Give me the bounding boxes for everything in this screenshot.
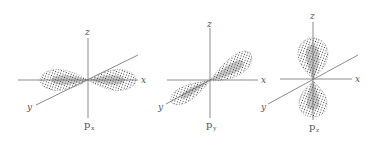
panel-px: z x y p x (18, 27, 146, 131)
caption-sub: y (212, 124, 217, 132)
p-orbitals-figure: z x y p x z x y p y (0, 0, 375, 146)
x-axis-label: x (355, 74, 360, 84)
y-axis-label: y (157, 102, 164, 112)
y-axis-label: y (260, 102, 267, 112)
caption-main: p (206, 119, 212, 130)
z-axis-label: z (309, 11, 315, 21)
y-axis-label: y (26, 102, 33, 112)
z-axis-label: z (84, 27, 90, 37)
caption-sub: x (91, 124, 95, 131)
caption-main: p (84, 119, 90, 130)
x-axis-label: x (261, 75, 266, 85)
panel-py: z x y p y (157, 19, 266, 132)
caption-sub: z (316, 126, 319, 133)
panel-pz: z x y p z (260, 11, 360, 133)
orbital-lobe-upper-right (210, 51, 252, 81)
x-axis-label: x (141, 75, 146, 85)
caption-main: p (309, 121, 315, 132)
z-axis-label: z (206, 19, 212, 29)
